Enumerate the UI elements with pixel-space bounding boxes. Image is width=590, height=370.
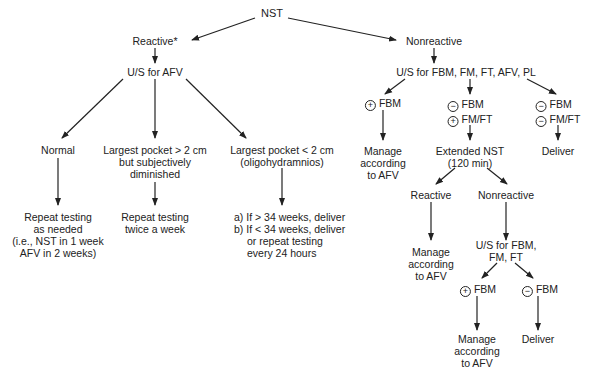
node-manage-afv-2: Manage according to AFV [408,246,454,282]
node-extended-nst: Extended NST (120 min) [436,145,504,169]
node-neg-fbm-pos-fmft: −FBM +FM/FT [448,97,493,127]
node-nonreactive-label: Nonreactive [406,35,462,47]
node-reactive-label: Reactive* [133,35,178,47]
arrow-us-fbm-to-neg-fbm-neg-fmft [527,79,556,94]
node-pos-fbm-2: +FBM [460,283,496,297]
node-manage-afv-line: Manage [360,145,406,157]
node-nst: NST [261,7,283,19]
node-manage-afv-line: according [454,345,500,357]
node-neg-fbm-label: FBM [550,98,572,110]
node-oligo-management-line: a) If > 34 weeks, deliver [234,211,345,223]
plus-circle-icon: + [460,286,471,297]
node-nst-label: NST [261,7,283,19]
node-oligo-management-line: or repeat testing [234,235,345,247]
node-oligo-management: a) If > 34 weeks, deliver b) If < 34 wee… [234,211,345,259]
node-ext-nonreactive-label: Nonreactive [478,189,534,201]
node-ext-reactive: Reactive [411,189,452,201]
node-deliver-1: Deliver [542,145,575,157]
plus-circle-icon: + [365,100,376,111]
arrow-us2-to-neg-fbm [515,263,533,278]
node-manage-afv-1: Manage according to AFV [360,145,406,181]
minus-circle-icon: − [448,101,459,112]
node-repeat-as-needed: Repeat testing as needed (i.e., NST in 1… [12,211,103,259]
arrow-us-afv-to-normal [62,79,123,138]
node-manage-afv-line: to AFV [408,270,454,282]
node-manage-afv-line: to AFV [454,357,500,369]
minus-circle-icon: − [536,101,547,112]
node-repeat-twice-week-line: Repeat testing [121,211,189,223]
node-repeat-as-needed-line: AFV in 2 weeks) [12,247,103,259]
node-pocket-lt2: Largest pocket < 2 cm (oligohydramnios) [230,144,334,168]
plus-circle-icon: + [448,116,459,127]
node-pocket-gt2: Largest pocket > 2 cm but subjectively d… [103,144,207,180]
arrow-nst-to-nonreactive [288,18,396,40]
node-oligo-management-line: b) If < 34 weeks, deliver [234,223,345,235]
node-pocket-gt2-line: diminished [103,168,207,180]
node-manage-afv-line: Manage [454,333,500,345]
node-pos-fbm-label: FBM [379,97,401,109]
node-us-for-afv: U/S for AFV [127,66,182,78]
node-ext-nonreactive: Nonreactive [478,189,534,201]
node-repeat-as-needed-line: Repeat testing [12,211,103,223]
node-pocket-lt2-line: (oligohydramnios) [230,156,334,168]
node-us-fbm-fm-ft-line: U/S for FBM, [476,239,537,251]
node-pos-fbm: +FBM [365,97,401,111]
node-neg-fbm-neg-fmft: −FBM −FM/FT [536,97,581,127]
node-pocket-lt2-line: Largest pocket < 2 cm [230,144,334,156]
node-repeat-as-needed-line: (i.e., NST in 1 week [12,235,103,247]
node-manage-afv-line: according [360,157,406,169]
node-manage-afv-line: Manage [408,246,454,258]
node-deliver-line: Deliver [522,333,555,345]
arrow-us2-to-pos-fbm [482,263,497,278]
node-pos-fbm-label: FBM [474,283,496,295]
node-manage-afv-line: according [408,258,454,270]
minus-circle-icon: − [536,116,547,127]
node-normal-line: Normal [41,144,75,156]
node-ext-reactive-label: Reactive [411,189,452,201]
node-pocket-gt2-line: Largest pocket > 2 cm [103,144,207,156]
node-manage-afv-line: to AFV [360,169,406,181]
node-pocket-gt2-line: but subjectively [103,156,207,168]
node-nonreactive: Nonreactive [406,35,462,47]
arrow-nst-to-reactive [192,18,255,40]
node-normal: Normal [41,144,75,156]
node-deliver-2: Deliver [522,333,555,345]
arrow-us-afv-to-pocket-lt2 [186,79,246,138]
flowchart-arrows [0,0,590,370]
node-repeat-as-needed-line: as needed [12,223,103,235]
node-reactive: Reactive* [133,35,178,47]
node-repeat-twice-week: Repeat testing twice a week [121,211,189,235]
node-neg-fbm-2: −FBM [522,283,558,297]
node-deliver-line: Deliver [542,145,575,157]
node-us-for-fbm: U/S for FBM, FM, FT, AFV, PL [396,66,536,78]
node-extended-nst-line: (120 min) [436,157,504,169]
minus-circle-icon: − [522,286,533,297]
node-us-fbm-fm-ft-line: FM, FT [476,251,537,263]
node-extended-nst-line: Extended NST [436,145,504,157]
arrow-us-fbm-to-pos-fbm [385,79,405,94]
node-neg-fmft-label: FM/FT [550,113,581,125]
arrow-extended-to-reactive [436,168,455,184]
node-neg-fbm-label: FBM [462,98,484,110]
node-oligo-management-line: every 24 hours [234,247,345,259]
node-us-for-fbm-label: U/S for FBM, FM, FT, AFV, PL [396,66,536,78]
node-repeat-twice-week-line: twice a week [121,223,189,235]
node-us-fbm-fm-ft: U/S for FBM, FM, FT [476,239,537,263]
node-us-for-afv-label: U/S for AFV [127,66,182,78]
node-pos-fmft-label: FM/FT [462,113,493,125]
arrow-extended-to-nonreactive [487,168,507,184]
node-neg-fbm-label: FBM [536,283,558,295]
node-manage-afv-3: Manage according to AFV [454,333,500,369]
